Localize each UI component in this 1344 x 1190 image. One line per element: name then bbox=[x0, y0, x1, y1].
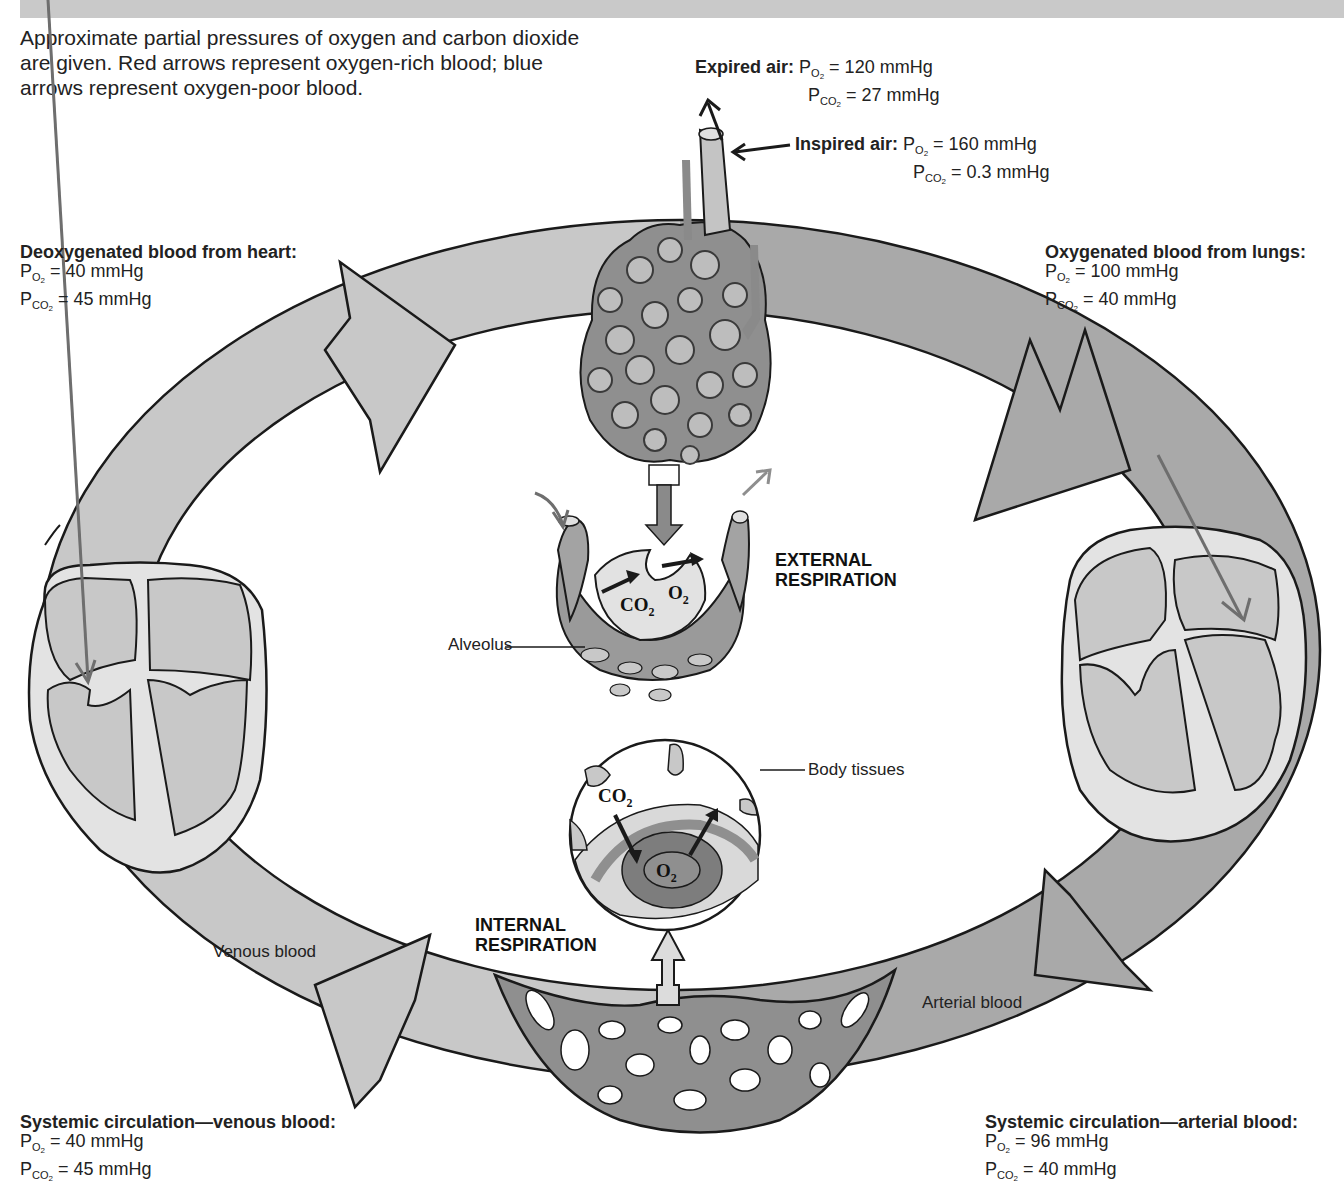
deoxygenated-po2: = 40 mmHg bbox=[50, 261, 144, 281]
systemic-venous-label: Systemic circulation—venous blood: PO2 =… bbox=[20, 1113, 336, 1188]
systemic-venous-title: Systemic circulation—venous blood: bbox=[20, 1113, 336, 1132]
oxygenated-pco2: = 40 mmHg bbox=[1083, 289, 1177, 309]
tissue-circle bbox=[570, 740, 805, 930]
expired-air-po2: = 120 mmHg bbox=[829, 57, 933, 77]
deoxygenated-pco2: = 45 mmHg bbox=[58, 289, 152, 309]
lung-to-alveolus-arrow bbox=[646, 485, 682, 545]
oxygenated-po2: = 100 mmHg bbox=[1075, 261, 1179, 281]
venous-blood-label: Venous blood bbox=[213, 942, 316, 962]
oxygenated-blood-label: Oxygenated blood from lungs: PO2 = 100 m… bbox=[1045, 243, 1306, 318]
systemic-arterial-pco2: = 40 mmHg bbox=[1023, 1159, 1117, 1179]
expired-air-pco2: = 27 mmHg bbox=[846, 85, 940, 105]
systemic-arterial-label: Systemic circulation—arterial blood: PO2… bbox=[985, 1113, 1298, 1188]
external-respiration-label: EXTERNAL RESPIRATION bbox=[775, 550, 897, 590]
inspired-air-pco2: = 0.3 mmHg bbox=[951, 162, 1050, 182]
alveolus-co2-label: CO2 bbox=[620, 594, 655, 620]
tissue-co2-label: CO2 bbox=[598, 785, 633, 811]
expired-air-label: Expired air: PO2 = 120 mmHg PCO2 = 27 mm… bbox=[695, 58, 940, 114]
oxygenated-title: Oxygenated blood from lungs: bbox=[1045, 243, 1306, 262]
inspired-air-label: Inspired air: PO2 = 160 mmHg PCO2 = 0.3 … bbox=[795, 135, 1050, 191]
inspired-air-po2: = 160 mmHg bbox=[933, 134, 1037, 154]
internal-arrow bbox=[652, 930, 684, 1005]
systemic-arterial-po2: = 96 mmHg bbox=[1015, 1131, 1109, 1151]
alveolus-o2-label: O2 bbox=[668, 582, 689, 608]
arterial-blood-label: Arterial blood bbox=[922, 993, 1022, 1013]
systemic-venous-po2: = 40 mmHg bbox=[50, 1131, 144, 1151]
inspired-air-title: Inspired air: bbox=[795, 134, 898, 154]
systemic-venous-pco2: = 45 mmHg bbox=[58, 1159, 152, 1179]
internal-respiration-label: INTERNAL RESPIRATION bbox=[475, 915, 597, 955]
tissue-o2-label: O2 bbox=[656, 860, 677, 886]
expired-air-title: Expired air: bbox=[695, 57, 794, 77]
alveolus-illustration bbox=[505, 470, 770, 701]
deoxygenated-title: Deoxygenated blood from heart: bbox=[20, 243, 297, 262]
systemic-arterial-title: Systemic circulation—arterial blood: bbox=[985, 1113, 1298, 1132]
deoxygenated-blood-label: Deoxygenated blood from heart: PO2 = 40 … bbox=[20, 243, 297, 318]
alveolus-label: Alveolus bbox=[448, 635, 512, 655]
body-tissues-label: Body tissues bbox=[808, 760, 904, 780]
lung-cluster bbox=[580, 128, 770, 485]
